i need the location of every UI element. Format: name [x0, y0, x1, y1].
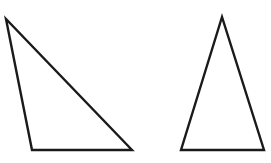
left-triangle [6, 19, 132, 150]
right-triangle [181, 17, 264, 150]
triangles-diagram [0, 0, 271, 163]
